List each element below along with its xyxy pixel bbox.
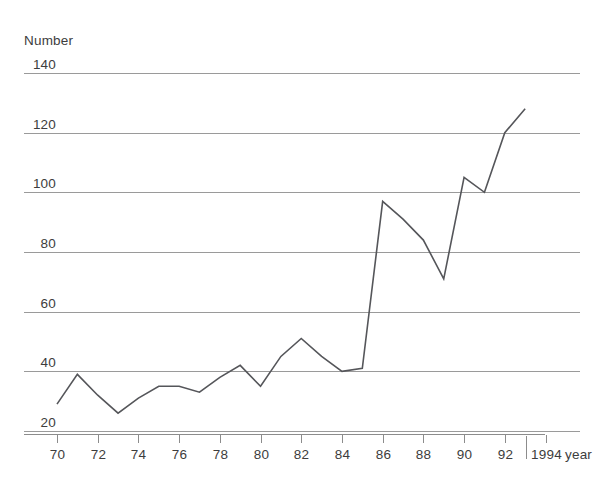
gridlines [24,74,580,432]
data-series-line [57,109,525,413]
x-axis-tickmarks [58,435,547,443]
line-chart: Number year 20406080100120140 7072747678… [0,0,609,483]
plot-area [0,0,609,483]
